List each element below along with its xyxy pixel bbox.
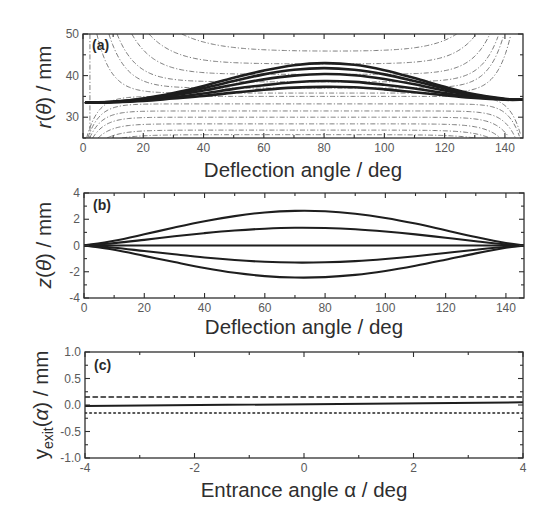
y-tick-label: -4 xyxy=(69,291,80,305)
x-tick-label: 100 xyxy=(375,301,395,315)
x-tick-label: -2 xyxy=(189,461,200,475)
x-tick-label: 140 xyxy=(496,301,516,315)
panel-label: (a) xyxy=(92,37,109,53)
panel-b: 020406080100120140-4-2024Deflection angl… xyxy=(32,186,524,338)
x-axis-label: Entrance angle α / deg xyxy=(201,478,408,501)
x-tick-label: 100 xyxy=(374,141,394,155)
x-tick-label: 80 xyxy=(318,301,332,315)
x-axis-label: Deflection angle / deg xyxy=(205,315,403,338)
y-axis-label-part: z xyxy=(32,278,55,289)
series-line-trajectory-2 xyxy=(84,228,524,246)
x-tick-label: 140 xyxy=(495,141,515,155)
x-tick-label: 40 xyxy=(198,301,212,315)
y-axis-label-part: ) / mm xyxy=(32,202,55,260)
field-contour-line xyxy=(88,104,520,138)
x-tick-label: 4 xyxy=(520,461,527,475)
y-axis-label-part: ) / mm xyxy=(29,351,52,409)
y-axis-label: yexit(α) / mm xyxy=(29,351,56,460)
y-tick-label: 0.5 xyxy=(64,372,81,386)
y-tick-label: -1.0 xyxy=(60,451,81,465)
x-axis-label: Deflection angle / deg xyxy=(204,158,402,181)
x-tick-label: 0 xyxy=(81,301,88,315)
x-tick-label: 0 xyxy=(80,141,87,155)
x-tick-label: 120 xyxy=(435,141,455,155)
x-tick-label: 20 xyxy=(138,301,152,315)
y-tick-label: 2 xyxy=(73,212,80,226)
panel-label: (c) xyxy=(94,357,111,373)
y-tick-label: -2 xyxy=(69,265,80,279)
field-contour-line xyxy=(98,124,499,138)
x-tick-label: 40 xyxy=(197,141,211,155)
y-tick-label: -0.5 xyxy=(60,425,81,439)
y-tick-label: 0 xyxy=(73,239,80,253)
y-axis-label-part: θ xyxy=(32,104,55,115)
field-contour-line xyxy=(149,34,476,64)
panel-a: 020406080100120140304050Deflection angle… xyxy=(32,27,523,181)
x-tick-label: 60 xyxy=(257,141,271,155)
field-contour-line xyxy=(107,130,489,138)
plot-area xyxy=(85,397,523,413)
y-tick-label: 50 xyxy=(66,27,80,41)
y-tick-label: 0.0 xyxy=(64,398,81,412)
x-tick-label: -4 xyxy=(80,461,91,475)
series-line-trajectory-4 xyxy=(84,246,524,263)
y-axis-label: r(θ) / mm xyxy=(32,46,55,129)
panel-c: -4-2024-1.0-0.50.00.51.0Entrance angle α… xyxy=(29,345,527,501)
x-tick-label: 2 xyxy=(410,461,417,475)
field-contour-line xyxy=(93,117,509,138)
field-contour-line xyxy=(182,34,457,51)
chart-canvas: 020406080100120140304050Deflection angle… xyxy=(0,0,552,525)
x-tick-label: 60 xyxy=(258,301,272,315)
y-tick-label: 40 xyxy=(66,69,80,83)
y-tick-label: 4 xyxy=(73,186,80,200)
y-tick-label: 1.0 xyxy=(64,345,81,359)
plot-area xyxy=(86,34,523,138)
series-line-exit-position xyxy=(85,402,523,406)
x-tick-label: 120 xyxy=(436,301,456,315)
y-axis-label: z(θ) / mm xyxy=(32,202,55,289)
x-tick-label: 20 xyxy=(137,141,151,155)
figure: 020406080100120140304050Deflection angle… xyxy=(0,0,552,525)
y-axis-label-part: ) / mm xyxy=(32,46,55,104)
x-tick-label: 80 xyxy=(317,141,331,155)
y-tick-label: 30 xyxy=(66,110,80,124)
plot-area xyxy=(84,211,524,278)
y-axis-label-part: θ xyxy=(32,260,55,271)
panel-label: (b) xyxy=(93,197,111,213)
x-tick-label: 0 xyxy=(301,461,308,475)
y-axis-label-part: exit xyxy=(40,427,56,449)
